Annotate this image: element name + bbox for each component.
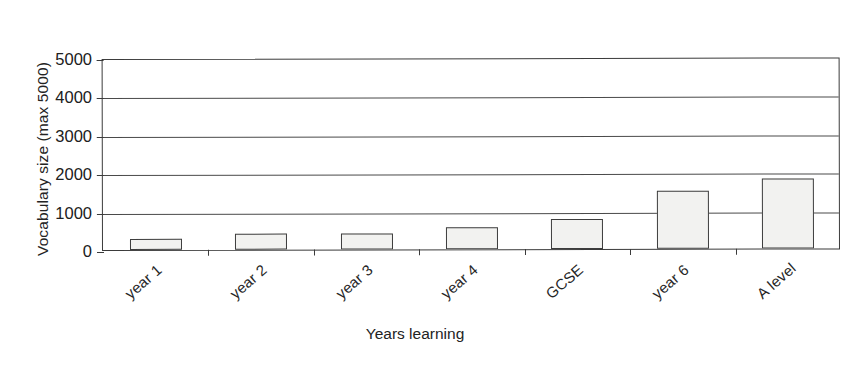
- bar-chart-figure: Vocabulary size (max 5000) 0100020003000…: [0, 0, 864, 368]
- x-axis-tick-labels: year 1year 2year 3year 4GCSEyear 6A leve…: [0, 0, 864, 368]
- x-axis-tick-label: year 6: [648, 261, 692, 302]
- x-axis-tick-label: year 4: [437, 261, 481, 302]
- x-axis-tick-label: year 3: [332, 261, 376, 302]
- x-axis-tick-label: year 2: [227, 261, 271, 302]
- x-axis-title-text: Years learning: [366, 325, 465, 342]
- x-axis-tick-label: year 1: [121, 261, 165, 302]
- x-axis-title: Years learning: [0, 325, 864, 343]
- x-axis-tick-label: GCSE: [543, 261, 587, 302]
- x-axis-tick-label: A level: [754, 259, 800, 302]
